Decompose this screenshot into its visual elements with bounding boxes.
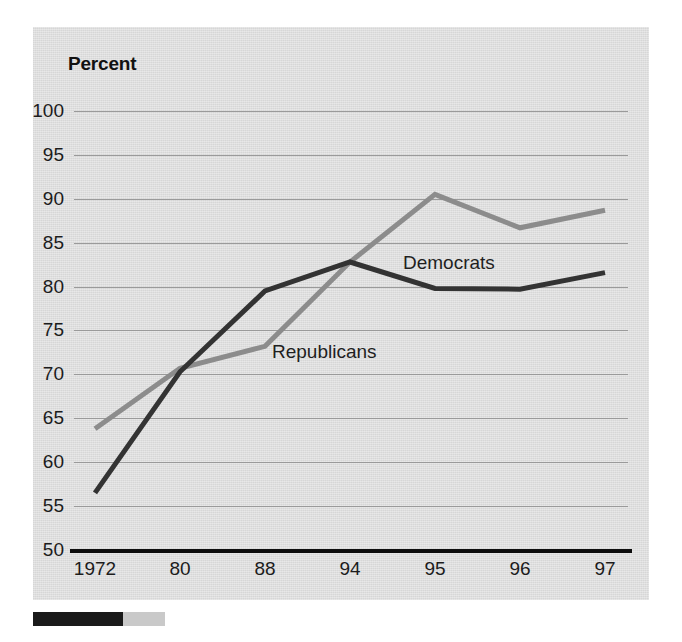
chart-figure: Percent 100 95 90 85 80 75 70 65 60 55 5… [0, 0, 682, 642]
footer-marker-dark [33, 612, 123, 626]
series-annotation-republicans: Republicans [272, 341, 377, 363]
plot-area: 100 95 90 85 80 75 70 65 60 55 50 1972 8… [0, 0, 682, 642]
series-canvas [0, 0, 682, 642]
series-line-republicans [95, 194, 605, 428]
footer-marker-light [123, 612, 165, 626]
series-line-democrats [95, 262, 605, 493]
series-annotation-democrats: Democrats [403, 252, 495, 274]
